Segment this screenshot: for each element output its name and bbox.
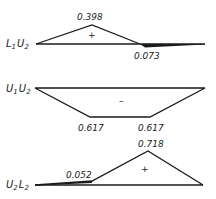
value-right: 0.617 (138, 123, 164, 133)
positive-region (35, 151, 203, 185)
value-peak: 0.398 (77, 12, 103, 22)
member-label-u1u2: U1U2 (6, 83, 31, 96)
panel-u2l2: U2L2 + 0.052 0.718 (6, 139, 203, 192)
value-left: 0.617 (78, 123, 104, 133)
value-kink: 0.052 (66, 170, 92, 180)
panel-u1u2: U1U2 – 0.617 0.617 (6, 83, 205, 133)
influence-line-diagram: L1U2 + 0.398 0.073 U1U2 – 0.617 0.617 U2… (0, 0, 216, 199)
member-label-l1u2: L1U2 (6, 38, 29, 51)
sign-plus: + (88, 30, 96, 40)
sign-minus: – (119, 96, 124, 106)
value-dip: 0.073 (134, 51, 160, 61)
value-peak: 0.718 (138, 139, 164, 149)
member-label-u2l2: U2L2 (6, 179, 29, 192)
negative-region (140, 44, 205, 48)
sign-plus: + (141, 164, 149, 174)
panel-l1u2: L1U2 + 0.398 0.073 (6, 12, 205, 61)
